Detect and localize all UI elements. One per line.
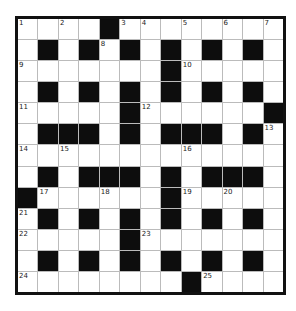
grid-cell[interactable] — [243, 103, 262, 123]
grid-cell[interactable] — [100, 103, 119, 123]
grid-cell[interactable] — [223, 209, 242, 229]
grid-cell[interactable] — [141, 145, 160, 165]
grid-cell[interactable] — [182, 209, 201, 229]
grid-cell[interactable] — [100, 272, 119, 292]
grid-cell[interactable] — [120, 61, 139, 81]
grid-cell[interactable] — [182, 103, 201, 123]
grid-cell[interactable] — [223, 61, 242, 81]
grid-cell[interactable] — [141, 40, 160, 60]
grid-cell[interactable] — [264, 209, 283, 229]
grid-cell[interactable] — [264, 167, 283, 187]
grid-cell[interactable] — [161, 230, 180, 250]
grid-cell[interactable] — [141, 251, 160, 271]
grid-cell[interactable] — [202, 188, 221, 208]
grid-cell[interactable]: 20 — [223, 188, 242, 208]
grid-cell[interactable]: 25 — [202, 272, 221, 292]
grid-cell[interactable] — [264, 272, 283, 292]
grid-cell[interactable] — [79, 19, 98, 39]
grid-cell[interactable] — [141, 124, 160, 144]
grid-cell[interactable] — [18, 40, 37, 60]
grid-cell[interactable]: 24 — [18, 272, 37, 292]
grid-cell[interactable] — [202, 19, 221, 39]
grid-cell[interactable] — [264, 40, 283, 60]
grid-cell[interactable] — [161, 272, 180, 292]
grid-cell[interactable] — [264, 82, 283, 102]
grid-cell[interactable] — [223, 272, 242, 292]
grid-cell[interactable]: 11 — [18, 103, 37, 123]
grid-cell[interactable] — [141, 167, 160, 187]
grid-cell[interactable] — [59, 230, 78, 250]
grid-cell[interactable]: 4 — [141, 19, 160, 39]
grid-cell[interactable] — [59, 251, 78, 271]
grid-cell[interactable] — [223, 103, 242, 123]
grid-cell[interactable]: 22 — [18, 230, 37, 250]
grid-cell[interactable] — [202, 145, 221, 165]
grid-cell[interactable] — [223, 145, 242, 165]
grid-cell[interactable]: 23 — [141, 230, 160, 250]
grid-cell[interactable] — [18, 251, 37, 271]
grid-cell[interactable] — [141, 209, 160, 229]
grid-cell[interactable] — [182, 82, 201, 102]
grid-cell[interactable]: 15 — [59, 145, 78, 165]
grid-cell[interactable] — [18, 82, 37, 102]
grid-cell[interactable] — [223, 82, 242, 102]
grid-cell[interactable]: 8 — [100, 40, 119, 60]
grid-cell[interactable] — [243, 230, 262, 250]
grid-cell[interactable] — [141, 82, 160, 102]
grid-cell[interactable] — [182, 40, 201, 60]
grid-cell[interactable] — [38, 103, 57, 123]
grid-cell[interactable] — [161, 19, 180, 39]
grid-cell[interactable] — [59, 188, 78, 208]
grid-cell[interactable]: 2 — [59, 19, 78, 39]
grid-cell[interactable] — [223, 40, 242, 60]
grid-cell[interactable] — [38, 145, 57, 165]
grid-cell[interactable] — [79, 230, 98, 250]
grid-cell[interactable] — [223, 124, 242, 144]
grid-cell[interactable] — [120, 272, 139, 292]
grid-cell[interactable] — [223, 251, 242, 271]
grid-cell[interactable] — [120, 188, 139, 208]
grid-cell[interactable] — [141, 272, 160, 292]
grid-cell[interactable] — [202, 230, 221, 250]
grid-cell[interactable] — [100, 124, 119, 144]
grid-cell[interactable] — [120, 145, 139, 165]
grid-cell[interactable] — [141, 188, 160, 208]
grid-cell[interactable] — [100, 209, 119, 229]
grid-cell[interactable] — [59, 40, 78, 60]
grid-cell[interactable] — [243, 19, 262, 39]
grid-cell[interactable] — [18, 167, 37, 187]
grid-cell[interactable] — [100, 82, 119, 102]
grid-cell[interactable] — [79, 145, 98, 165]
grid-cell[interactable] — [100, 251, 119, 271]
grid-cell[interactable]: 14 — [18, 145, 37, 165]
grid-cell[interactable] — [59, 209, 78, 229]
grid-cell[interactable] — [59, 272, 78, 292]
grid-cell[interactable] — [243, 188, 262, 208]
grid-cell[interactable] — [202, 103, 221, 123]
grid-cell[interactable] — [100, 145, 119, 165]
grid-cell[interactable] — [79, 61, 98, 81]
grid-cell[interactable]: 13 — [264, 124, 283, 144]
grid-cell[interactable] — [38, 272, 57, 292]
grid-cell[interactable] — [100, 61, 119, 81]
grid-cell[interactable] — [182, 230, 201, 250]
grid-cell[interactable]: 18 — [100, 188, 119, 208]
grid-cell[interactable]: 3 — [120, 19, 139, 39]
grid-cell[interactable] — [79, 103, 98, 123]
grid-cell[interactable]: 1 — [18, 19, 37, 39]
grid-cell[interactable] — [264, 188, 283, 208]
grid-cell[interactable]: 6 — [223, 19, 242, 39]
grid-cell[interactable]: 9 — [18, 61, 37, 81]
grid-cell[interactable] — [161, 103, 180, 123]
grid-cell[interactable]: 16 — [182, 145, 201, 165]
grid-cell[interactable] — [243, 145, 262, 165]
grid-cell[interactable]: 17 — [38, 188, 57, 208]
grid-cell[interactable]: 10 — [182, 61, 201, 81]
grid-cell[interactable] — [141, 61, 160, 81]
grid-cell[interactable] — [264, 145, 283, 165]
grid-cell[interactable]: 5 — [182, 19, 201, 39]
grid-cell[interactable] — [202, 61, 221, 81]
grid-cell[interactable] — [18, 124, 37, 144]
grid-cell[interactable] — [59, 61, 78, 81]
grid-cell[interactable] — [59, 103, 78, 123]
